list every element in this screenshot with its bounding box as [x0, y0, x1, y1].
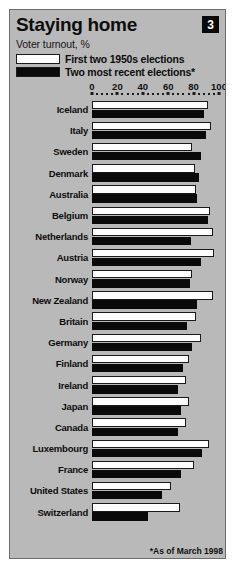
bar-first-elections [92, 482, 171, 490]
bar-pair [92, 439, 219, 458]
bar-recent-elections [92, 364, 183, 372]
bar-row: Canada [16, 417, 219, 438]
category-label: United States [16, 485, 92, 496]
chart-plot-area: 020406080100 IcelandItalySwedenDenmarkAu… [16, 81, 219, 523]
category-label: New Zealand [16, 295, 92, 306]
x-axis-minor-tick-mark [147, 93, 149, 95]
x-axis-minor-tick-mark [111, 93, 113, 95]
category-label: Ireland [16, 380, 92, 391]
bar-recent-elections [92, 258, 201, 266]
x-axis-minor-tick-mark [188, 93, 190, 95]
x-axis-minor-tick-mark [127, 93, 129, 95]
bar-pair [92, 227, 219, 246]
x-axis-minor-tick-mark [172, 93, 174, 95]
bar-pair [92, 333, 219, 352]
x-axis-tick-mark [116, 92, 119, 95]
bar-first-elections [92, 440, 209, 448]
category-label: Austria [16, 252, 92, 263]
bar-row: Ireland [16, 374, 219, 395]
bar-row: Japan [16, 396, 219, 417]
x-axis-minor-tick-mark [198, 93, 200, 95]
category-label: Germany [16, 337, 92, 348]
x-axis-minor-tick-mark [101, 93, 103, 95]
bar-recent-elections [92, 512, 148, 520]
bar-pair [92, 270, 219, 289]
bar-row: France [16, 459, 219, 480]
bar-first-elections [92, 334, 201, 342]
bar-first-elections [92, 270, 192, 278]
bar-recent-elections [92, 406, 181, 414]
bar-first-elections [92, 291, 213, 299]
chart-legend: First two 1950s elections Two most recen… [16, 53, 219, 78]
bar-first-elections [92, 101, 208, 109]
bar-first-elections [92, 122, 211, 130]
bar-pair [92, 121, 219, 140]
category-label: Finland [16, 358, 92, 369]
category-label: Japan [16, 401, 92, 412]
bar-first-elections [92, 207, 210, 215]
bar-row: Australia [16, 184, 219, 205]
bar-first-elections [92, 376, 186, 384]
bar-pair [92, 481, 219, 500]
bar-row: New Zealand [16, 290, 219, 311]
category-label: Australia [16, 189, 92, 200]
bar-pair [92, 418, 219, 437]
bar-row: Sweden [16, 141, 219, 162]
bar-row: Netherlands [16, 226, 219, 247]
bar-pair [92, 100, 219, 119]
bar-recent-elections [92, 300, 197, 308]
bar-row: United States [16, 480, 219, 501]
x-axis-minor-tick-mark [132, 93, 134, 95]
category-label: France [16, 464, 92, 475]
bar-row: Belgium [16, 205, 219, 226]
x-axis-tick-label: 100 [211, 81, 226, 92]
x-axis-minor-tick-mark [182, 93, 184, 95]
bar-pair [92, 376, 219, 395]
bar-pair [92, 354, 219, 373]
bar-row: Iceland [16, 99, 219, 120]
x-axis-tick-label: 80 [188, 81, 199, 92]
x-axis-minor-tick-mark [106, 93, 108, 95]
bar-first-elections [92, 164, 195, 172]
legend-label-recent-elections: Two most recent elections* [65, 66, 195, 78]
category-label: Belgium [16, 210, 92, 221]
bar-row: Italy [16, 120, 219, 141]
bar-recent-elections [92, 343, 192, 351]
x-axis-tick-mark [167, 92, 170, 95]
bar-pair [92, 291, 219, 310]
bar-pair [92, 460, 219, 479]
x-axis-tick-label: 20 [112, 81, 123, 92]
legend-item-first-elections: First two 1950s elections [16, 53, 219, 65]
category-label: Sweden [16, 146, 92, 157]
bar-pair [92, 503, 219, 522]
chart-footnote: *As of March 1998 [150, 546, 223, 556]
bar-recent-elections [92, 194, 197, 202]
category-label: Norway [16, 274, 92, 285]
x-axis-minor-tick-mark [213, 93, 215, 95]
bar-first-elections [92, 143, 192, 151]
x-axis-minor-tick-mark [203, 93, 205, 95]
bar-row: Norway [16, 269, 219, 290]
bar-recent-elections [92, 491, 162, 499]
bar-recent-elections [92, 470, 181, 478]
x-axis-tick-mark [91, 92, 94, 95]
bar-recent-elections [92, 110, 204, 118]
legend-label-first-elections: First two 1950s elections [65, 53, 184, 65]
x-axis-minor-tick-mark [162, 93, 164, 95]
legend-swatch-icon-black [16, 67, 60, 77]
bar-recent-elections [92, 449, 202, 457]
x-axis-tick-marks [92, 93, 219, 97]
bar-row: Luxembourg [16, 438, 219, 459]
x-axis-minor-tick-mark [208, 93, 210, 95]
bar-pair [92, 248, 219, 267]
bar-row: Finland [16, 353, 219, 374]
bar-first-elections [92, 228, 213, 236]
category-label: Canada [16, 422, 92, 433]
x-axis-minor-tick-mark [152, 93, 154, 95]
bar-row: Denmark [16, 163, 219, 184]
bar-pair [92, 206, 219, 225]
x-axis: 020406080100 [92, 81, 219, 99]
bar-recent-elections [92, 173, 199, 181]
x-axis-tick-mark [218, 92, 221, 95]
bar-first-elections [92, 503, 180, 511]
